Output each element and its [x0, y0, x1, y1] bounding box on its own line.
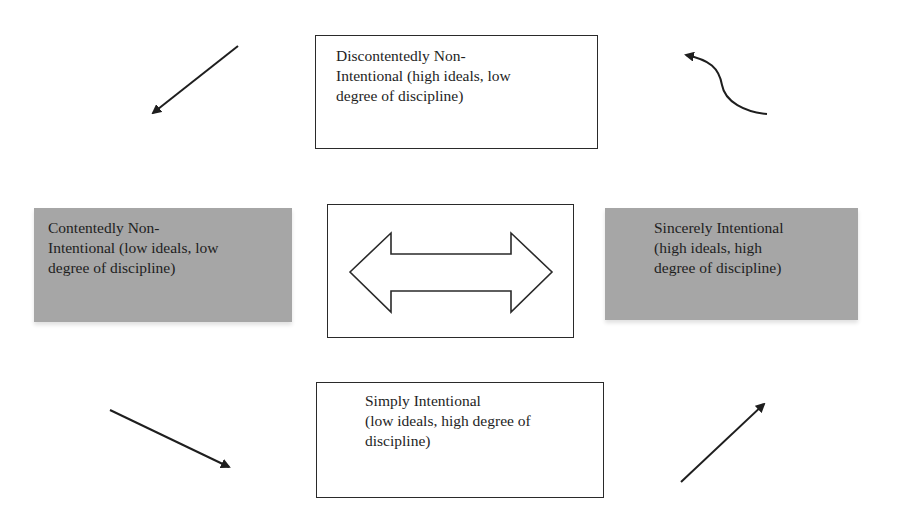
arrow-curved-up-left-icon — [686, 55, 767, 114]
arrow-up-right-icon — [681, 404, 764, 482]
cycle-arrows — [0, 0, 899, 526]
arrow-down-left-icon — [153, 46, 238, 113]
arrow-down-right-icon — [110, 410, 229, 467]
